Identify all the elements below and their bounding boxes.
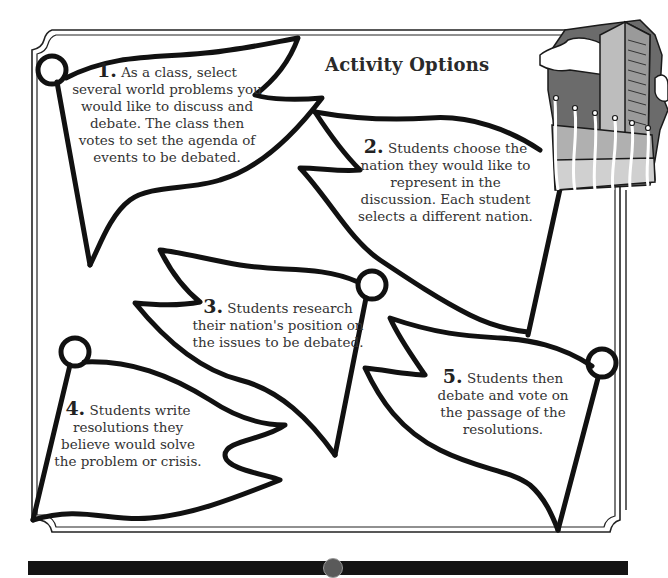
page-title: Activity Options [325, 54, 489, 75]
step-number: 5. [443, 365, 463, 387]
step-number: 4. [65, 397, 85, 419]
flag-4-text: 4. Students write resolutions they belie… [48, 400, 208, 470]
step-number: 1. [97, 59, 117, 81]
step-number: 2. [364, 135, 384, 157]
globe-icon [323, 558, 343, 578]
step-description: Students choose the nation they would li… [358, 140, 533, 224]
flag-2-text: 2. Students choose the nation they would… [358, 138, 533, 225]
step-number: 3. [203, 295, 223, 317]
un-building-illustration [540, 20, 668, 190]
flag-5-text: 5. Students then debate and vote on the … [428, 368, 578, 438]
flag-3-text: 3. Students research their nation's posi… [192, 298, 364, 351]
flag-1-text: 1. As a class, select several world prob… [72, 62, 262, 166]
